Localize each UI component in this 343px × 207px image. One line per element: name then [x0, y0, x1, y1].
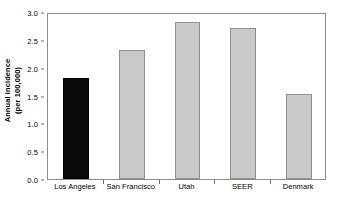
- y-tick-label: 2.0: [16, 64, 38, 73]
- plot-area: [47, 13, 326, 180]
- bar-seer: [230, 28, 256, 179]
- y-tick-label: 0.5: [16, 148, 38, 157]
- y-tick-mark: [41, 40, 44, 41]
- x-axis-category-labels: Los AngelesSan FranciscoUtahSEERDenmark: [47, 182, 326, 198]
- y-tick-label: 0.0: [16, 176, 38, 185]
- y-axis-title-line2: (per 100,000): [13, 66, 22, 113]
- x-category-label: SEER: [232, 182, 253, 191]
- bars-layer: [48, 14, 325, 179]
- x-category-label: Los Angeles: [54, 182, 95, 191]
- bar-utah: [175, 22, 201, 179]
- bar-san-francisco: [119, 50, 145, 179]
- x-category-label: San Francisco: [106, 182, 155, 191]
- y-tick-mark: [41, 124, 44, 125]
- y-tick-mark: [41, 96, 44, 97]
- x-category-label: Denmark: [283, 182, 314, 191]
- y-tick-label: 1.0: [16, 120, 38, 129]
- x-category-label: Utah: [178, 182, 194, 191]
- y-tick-mark: [41, 13, 44, 14]
- y-tick-label: 3.0: [16, 9, 38, 18]
- y-axis-tick-labels: 0.00.51.01.52.02.53.0: [22, 8, 44, 180]
- y-tick-mark: [41, 152, 44, 153]
- y-tick-label: 1.5: [16, 92, 38, 101]
- y-axis-title-line1: Annual incidence: [4, 58, 13, 122]
- y-tick-label: 2.5: [16, 36, 38, 45]
- y-tick-mark: [41, 68, 44, 69]
- bar-los-angeles: [63, 78, 89, 179]
- bar-chart-figure: Annual incidence (per 100,000) 0.00.51.0…: [0, 0, 343, 207]
- y-tick-mark: [41, 180, 44, 181]
- bar-denmark: [286, 94, 312, 179]
